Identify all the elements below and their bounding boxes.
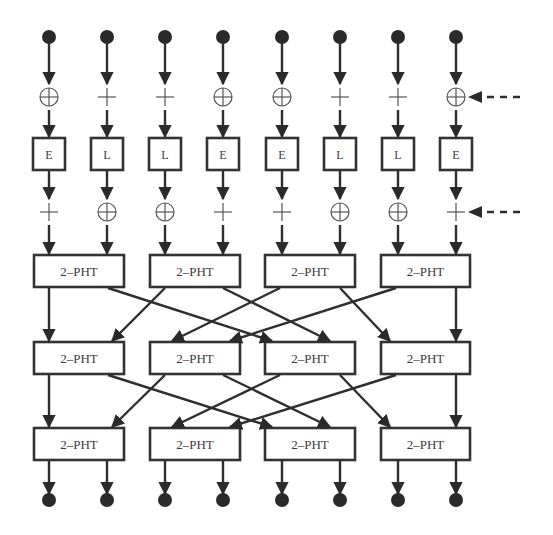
pht-box: 2–PHT [265,342,355,374]
pht-box-label: 2–PHT [407,351,445,366]
output-node [42,493,56,507]
nonlinear-e-l-layer: ELLEELLE [33,138,472,199]
xor-icon [40,88,58,106]
nonlinear-box-l: L [324,138,356,170]
pht-box-label: 2–PHT [407,264,445,279]
output-node [391,493,405,507]
pht-box-label: 2–PHT [176,351,214,366]
nonlinear-box-e: E [266,138,298,170]
cipher-round-diagram: ELLEELLE 2–PHT2–PHT2–PHT2–PHT2–PHT2–PHT2… [0,0,553,535]
pht-box: 2–PHT [381,342,470,374]
butterfly-wire [112,375,165,427]
nonlinear-box-l: L [91,138,123,170]
output-node [158,493,172,507]
output-node [100,493,114,507]
key-input-arrowhead-icon [468,206,482,218]
output-node [333,493,347,507]
add-icon [331,88,349,106]
nonlinear-box-label: E [219,148,226,162]
input-node [275,30,289,44]
pht-box: 2–PHT [265,255,355,287]
pht-box-label: 2–PHT [291,264,329,279]
input-node [158,30,172,44]
pht-box-label: 2–PHT [291,351,329,366]
nonlinear-box-label: L [161,148,168,162]
output-node [275,493,289,507]
add-icon [273,203,291,221]
pht-box-label: 2–PHT [176,437,214,452]
second-key-mixing-layer [40,203,465,254]
nonlinear-box-label: E [452,148,459,162]
xor-icon [331,203,349,221]
input-node [100,30,114,44]
butterfly-wire [112,288,165,341]
input-node [216,30,230,44]
pht-box: 2–PHT [150,428,240,460]
output-node [449,493,463,507]
pht-box-label: 2–PHT [291,437,329,452]
output-node [216,493,230,507]
nonlinear-box-l: L [149,138,181,170]
pht-box: 2–PHT [150,342,240,374]
xor-icon [389,203,407,221]
pht-box: 2–PHT [265,428,355,460]
input-node [333,30,347,44]
butterfly-wire [340,375,390,427]
nonlinear-box-label: L [394,148,401,162]
xor-icon [447,88,465,106]
nonlinear-box-e: E [440,138,472,170]
pht-box: 2–PHT [381,255,470,287]
key-input-arrowhead-icon [468,91,482,103]
nonlinear-box-l: L [382,138,414,170]
butterfly-wire [340,288,390,341]
input-node [42,30,56,44]
pht-box: 2–PHT [34,428,124,460]
nonlinear-box-label: L [103,148,110,162]
key-input-arrows [468,91,520,218]
pht-box: 2–PHT [34,342,124,374]
xor-icon [214,88,232,106]
nonlinear-box-label: L [336,148,343,162]
add-icon [156,88,174,106]
input-node [449,30,463,44]
add-icon [389,88,407,106]
add-icon [447,203,465,221]
nonlinear-box-label: E [45,148,52,162]
pht-box-label: 2–PHT [176,264,214,279]
nonlinear-box-e: E [207,138,239,170]
pht-box-label: 2–PHT [60,264,98,279]
pht-layers: 2–PHT2–PHT2–PHT2–PHT2–PHT2–PHT2–PHT2–PHT… [34,255,470,460]
pht-box-label: 2–PHT [407,437,445,452]
add-icon [214,203,232,221]
xor-icon [273,88,291,106]
nonlinear-box-e: E [33,138,65,170]
pht-box: 2–PHT [34,255,124,287]
xor-icon [156,203,174,221]
xor-icon [98,203,116,221]
pht-box: 2–PHT [150,255,240,287]
nonlinear-box-label: E [278,148,285,162]
add-icon [40,203,58,221]
input-nodes [42,30,463,84]
input-node [391,30,405,44]
pht-box: 2–PHT [381,428,470,460]
pht-box-label: 2–PHT [60,437,98,452]
pht-box-label: 2–PHT [60,351,98,366]
first-key-mixing-layer [40,88,465,137]
output-nodes [42,461,463,507]
add-icon [98,88,116,106]
